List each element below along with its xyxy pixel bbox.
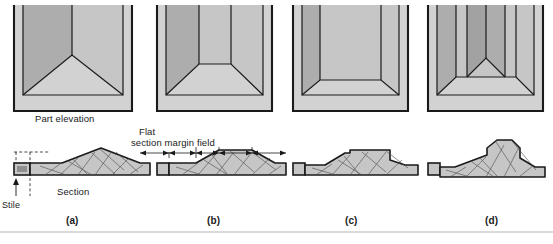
panel-label-d: (d) — [485, 215, 498, 226]
caption-part-elevation: Part elevation — [35, 113, 95, 124]
caption-section: Section — [57, 186, 89, 197]
dimension-note-line2: section margin field — [131, 137, 215, 148]
caption-stile: Stile — [2, 200, 20, 210]
elevation-panel-a — [14, 5, 132, 111]
panel-label-a: (a) — [66, 215, 79, 226]
panel-label-b: (b) — [207, 215, 220, 226]
dimension-note-line1: Flat — [139, 126, 155, 137]
elevation-panel-b — [157, 5, 272, 111]
elevation-panel-c — [293, 5, 408, 111]
panel-label-c: (c) — [345, 215, 358, 226]
elevation-panel-d — [428, 5, 543, 111]
